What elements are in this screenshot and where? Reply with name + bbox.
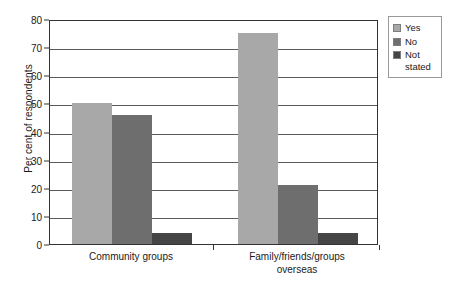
bar-yes-group-2 (238, 33, 278, 244)
y-tick-label: 60 (31, 71, 42, 82)
bar-chart: Per cent of respondents 0102030405060708… (0, 0, 454, 286)
legend-swatch-no (393, 38, 401, 46)
y-tick-label: 10 (31, 211, 42, 222)
bar-yes-group-1 (72, 103, 112, 244)
legend-label-not-stated: Not stated (405, 49, 431, 72)
y-tick-label: 80 (31, 15, 42, 26)
legend-label-no: No (405, 36, 417, 48)
y-tick-label: 20 (31, 183, 42, 194)
bar-not-stated-group-1 (152, 233, 192, 244)
y-tick-label: 50 (31, 99, 42, 110)
legend-item-not-stated: Not stated (393, 49, 437, 72)
x-tick-mark (213, 245, 214, 250)
y-axis-ticks: 01020304050607080 (0, 20, 49, 245)
x-axis-label: Family/friends/groupsoverseas (249, 251, 345, 276)
y-tick-label: 30 (31, 155, 42, 166)
legend-swatch-yes (393, 24, 401, 32)
chart-legend: Yes No Not stated (388, 16, 442, 78)
legend-label-yes: Yes (405, 22, 421, 34)
y-tick-label: 0 (36, 240, 42, 251)
x-tick-mark (379, 245, 380, 250)
y-tick-label: 40 (31, 127, 42, 138)
plot-area (49, 20, 378, 245)
bar-no-group-1 (112, 115, 152, 244)
legend-item-no: No (393, 36, 437, 48)
bar-no-group-2 (278, 185, 318, 244)
legend-swatch-not-stated (393, 51, 401, 59)
x-axis-label: Community groups (89, 251, 173, 264)
bars-layer (50, 21, 377, 244)
legend-item-yes: Yes (393, 22, 437, 34)
bar-not-stated-group-2 (318, 233, 358, 244)
y-tick-label: 70 (31, 43, 42, 54)
